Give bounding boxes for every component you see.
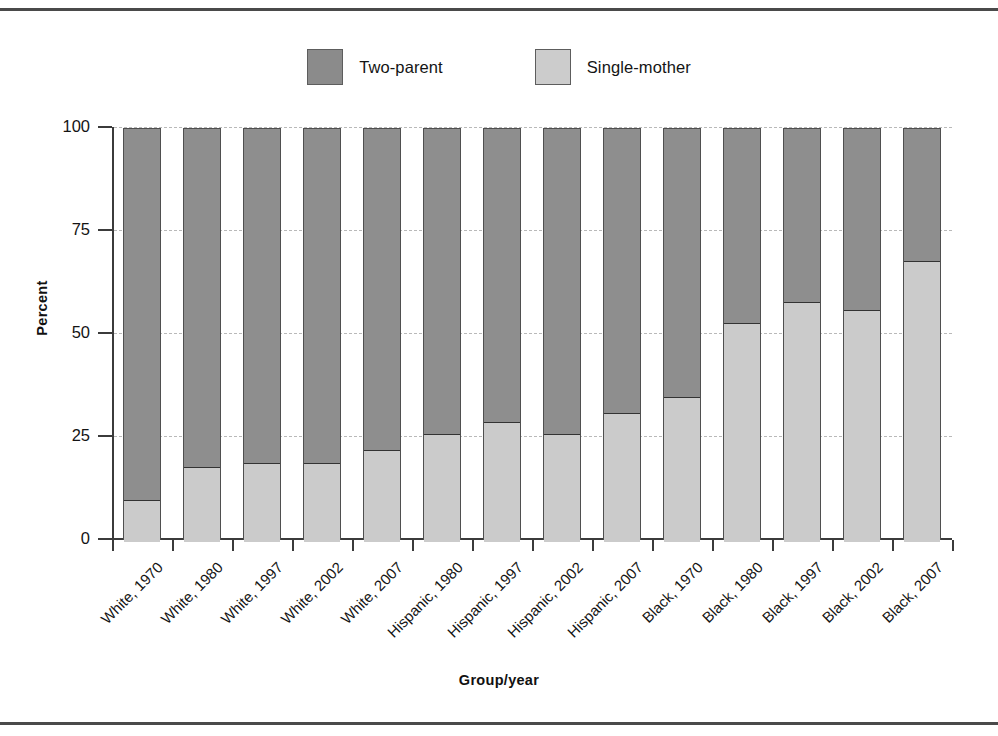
bar-segment-single-mother <box>424 434 460 542</box>
y-tick-50 <box>98 332 112 334</box>
x-tick-3 <box>352 540 354 551</box>
bar-segment-two-parent <box>664 129 700 397</box>
bar-segment-single-mother <box>604 413 640 542</box>
bar-black-1980 <box>723 128 761 540</box>
bar-segment-two-parent <box>904 129 940 261</box>
bar-segment-two-parent <box>484 129 520 422</box>
bar-white-1980 <box>183 128 221 540</box>
x-tick-4 <box>412 540 414 551</box>
bar-segment-single-mother <box>844 310 880 542</box>
y-tick-100 <box>98 126 112 128</box>
bar-white-2002 <box>303 128 341 540</box>
x-tick-13 <box>952 540 954 551</box>
bar-segment-two-parent <box>304 129 340 463</box>
y-tick-label-0: 0 <box>46 529 90 548</box>
x-tick-5 <box>472 540 474 551</box>
bar-segment-two-parent <box>244 129 280 463</box>
y-tick-label-75: 75 <box>46 220 90 239</box>
x-tick-7 <box>592 540 594 551</box>
bar-segment-single-mother <box>244 463 280 542</box>
bar-segment-single-mother <box>304 463 340 542</box>
bar-hispanic-1997 <box>483 128 521 540</box>
bar-black-2002 <box>843 128 881 540</box>
bar-segment-single-mother <box>724 323 760 542</box>
x-tick-6 <box>532 540 534 551</box>
bar-black-1970 <box>663 128 701 540</box>
x-tick-11 <box>832 540 834 551</box>
bar-segment-two-parent <box>784 129 820 302</box>
bar-segment-two-parent <box>184 129 220 467</box>
x-tick-12 <box>892 540 894 551</box>
bar-segment-two-parent <box>544 129 580 434</box>
y-tick-0 <box>98 538 112 540</box>
bar-segment-single-mother <box>364 450 400 542</box>
bar-segment-single-mother <box>484 422 520 542</box>
bar-black-1997 <box>783 128 821 540</box>
x-tick-9 <box>712 540 714 551</box>
x-tick-10 <box>772 540 774 551</box>
bar-segment-two-parent <box>844 129 880 310</box>
bar-black-2007 <box>903 128 941 540</box>
bar-white-1997 <box>243 128 281 540</box>
bar-segment-two-parent <box>604 129 640 413</box>
bar-white-2007 <box>363 128 401 540</box>
bar-segment-single-mother <box>124 500 160 542</box>
x-tick-1 <box>232 540 234 551</box>
bar-group <box>112 127 952 540</box>
y-tick-label-25: 25 <box>46 426 90 445</box>
x-tick-8 <box>652 540 654 551</box>
bar-segment-two-parent <box>424 129 460 434</box>
x-tick-origin <box>112 540 114 551</box>
bar-segment-two-parent <box>124 129 160 500</box>
bar-segment-two-parent <box>364 129 400 450</box>
y-tick-25 <box>98 435 112 437</box>
bar-hispanic-2002 <box>543 128 581 540</box>
x-tick-2 <box>292 540 294 551</box>
bar-segment-single-mother <box>664 397 700 542</box>
bar-segment-single-mother <box>784 302 820 542</box>
bar-segment-two-parent <box>724 129 760 323</box>
y-tick-75 <box>98 229 112 231</box>
bar-segment-single-mother <box>184 467 220 542</box>
bar-hispanic-1980 <box>423 128 461 540</box>
y-tick-label-100: 100 <box>46 117 90 136</box>
y-axis-title: Percent <box>34 248 50 368</box>
bar-white-1970 <box>123 128 161 540</box>
bar-segment-single-mother <box>544 434 580 542</box>
chart-plot-area: Percent Group/year 0255075100 White, 197… <box>0 0 998 736</box>
bar-segment-single-mother <box>904 261 940 542</box>
y-tick-label-50: 50 <box>46 323 90 342</box>
x-tick-0 <box>172 540 174 551</box>
bar-hispanic-2007 <box>603 128 641 540</box>
